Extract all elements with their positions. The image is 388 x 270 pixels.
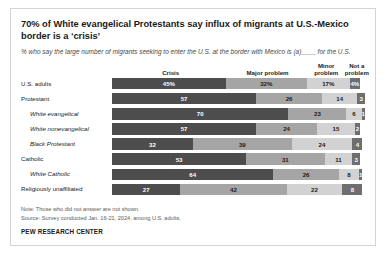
chart-row: Catholic5331113 xyxy=(21,153,365,168)
bar-segment-crisis: 70 xyxy=(112,108,288,119)
bar-value-label: 64 xyxy=(189,171,196,178)
chart-row: White Catholic642681 xyxy=(21,168,365,183)
bar-value-label: 1 xyxy=(359,171,362,178)
bar-segment-not-a-problem: 4 xyxy=(352,138,362,149)
bar-segment-minor-problem: 14 xyxy=(322,93,357,104)
bar-segment-not-a-problem: 4% xyxy=(350,78,360,89)
pew-research-center-logo: PEW RESEARCH CENTER xyxy=(21,228,365,235)
stacked-bar: 5726143 xyxy=(112,93,365,104)
bar-segment-major-problem: 24 xyxy=(256,123,317,134)
bar-segment-remainder xyxy=(362,169,365,180)
row-label-black-protestant: Black Protestant xyxy=(21,138,109,150)
bar-segment-crisis: 27 xyxy=(112,184,180,195)
bar-segment-minor-problem: 15 xyxy=(317,123,355,134)
bar-value-label: 14 xyxy=(336,95,343,102)
footnote-source: Source: Survey conducted Jan. 16-21, 202… xyxy=(21,214,365,222)
bar-value-label: 1 xyxy=(362,110,365,117)
bar-segment-minor-problem: 22 xyxy=(287,184,343,195)
stacked-bar: 5724152 xyxy=(112,123,365,134)
bar-segment-crisis: 57 xyxy=(112,123,256,134)
bar-value-label: 45% xyxy=(163,80,175,87)
bar-segment-minor-problem: 8 xyxy=(339,169,359,180)
stacked-bar: 2742228 xyxy=(112,184,365,195)
row-label-white-evangelical: White evangelical xyxy=(21,108,109,120)
column-header-not-a-problem: Not a problem xyxy=(340,62,374,76)
bar-value-label: 24 xyxy=(319,141,326,148)
chart-title: 70% of White evangelical Protestants say… xyxy=(21,18,365,43)
footnote-note: Note: Those who did not answer are not s… xyxy=(21,205,365,213)
chart-row: Protestant5726143 xyxy=(21,93,365,108)
bar-segment-remainder xyxy=(362,184,365,195)
chart-row: White evangelical702361 xyxy=(21,108,365,123)
chart-row: Black Protestant3239244 xyxy=(21,138,365,153)
bar-value-label: 31 xyxy=(282,156,289,163)
bar-segment-crisis: 45% xyxy=(112,78,226,89)
bar-value-label: 57 xyxy=(181,125,188,132)
bar-value-label: 24 xyxy=(283,125,290,132)
stacked-bar: 642681 xyxy=(112,169,365,180)
bar-segment-minor-problem: 24 xyxy=(292,138,353,149)
bar-segment-minor-problem: 17% xyxy=(307,78,350,89)
row-label-white-nonevangelical: White nonevangelical xyxy=(21,123,109,135)
bar-value-label: 39 xyxy=(239,141,246,148)
bar-value-label: 23 xyxy=(314,110,321,117)
bar-value-label: 2 xyxy=(356,125,359,132)
bar-value-label: 26 xyxy=(303,171,310,178)
bar-value-label: 32 xyxy=(149,141,156,148)
row-label-religiously-unaffiliated: Religiously unaffiliated xyxy=(21,183,109,195)
bar-value-label: 4% xyxy=(350,80,359,87)
bar-value-label: 17% xyxy=(322,80,334,87)
bar-segment-remainder xyxy=(360,123,365,134)
bar-value-label: 8 xyxy=(347,171,350,178)
row-label-catholic: Catholic xyxy=(21,153,109,165)
stacked-bar-chart: CrisisMajor problemMinor problemNot a pr… xyxy=(21,61,365,199)
stacked-bar: 3239244 xyxy=(112,138,365,149)
bar-value-label: 32% xyxy=(260,80,272,87)
chart-row: Religiously unaffiliated2742228 xyxy=(21,183,365,198)
column-header-crisis: Crisis xyxy=(136,69,206,76)
row-label-white-catholic: White Catholic xyxy=(21,168,109,180)
bar-segment-not-a-problem: 3 xyxy=(352,153,360,164)
bar-segment-major-problem: 32% xyxy=(226,78,307,89)
column-header-minor-problem: Minor problem xyxy=(309,62,343,76)
bar-value-label: 22 xyxy=(311,186,318,193)
bar-value-label: 57 xyxy=(181,95,188,102)
bar-segment-not-a-problem: 8 xyxy=(342,184,362,195)
bar-value-label: 3 xyxy=(354,156,357,163)
bar-segment-remainder xyxy=(362,138,365,149)
chart-row: White nonevangelical5724152 xyxy=(21,123,365,138)
bar-segment-major-problem: 39 xyxy=(193,138,292,149)
stacked-bar: 702361 xyxy=(112,108,365,119)
bar-segment-major-problem: 26 xyxy=(273,169,339,180)
stacked-bar: 45%32%17%4% xyxy=(112,78,365,89)
bar-value-label: 8 xyxy=(351,186,354,193)
chart-rows: U.S. adults45%32%17%4%Protestant5726143W… xyxy=(21,78,365,199)
column-header-major-problem: Major problem xyxy=(233,69,303,76)
bar-value-label: 4 xyxy=(356,141,359,148)
bar-segment-crisis: 32 xyxy=(112,138,193,149)
bar-value-label: 42 xyxy=(230,186,237,193)
bar-segment-crisis: 53 xyxy=(112,153,246,164)
column-headers: CrisisMajor problemMinor problemNot a pr… xyxy=(21,61,365,78)
stacked-bar: 5331113 xyxy=(112,153,365,164)
bar-segment-crisis: 57 xyxy=(112,93,256,104)
row-label-u-s-adults: U.S. adults xyxy=(21,78,109,90)
bar-segment-minor-problem: 6 xyxy=(346,108,361,119)
bar-segment-major-problem: 42 xyxy=(180,184,286,195)
bar-value-label: 70 xyxy=(197,110,204,117)
bar-value-label: 53 xyxy=(176,156,183,163)
bar-segment-major-problem: 26 xyxy=(256,93,322,104)
chart-subtitle: % who say the large number of migrants s… xyxy=(21,48,365,57)
bar-value-label: 6 xyxy=(352,110,355,117)
bar-segment-crisis: 64 xyxy=(112,169,273,180)
bar-segment-remainder xyxy=(360,153,365,164)
chart-row: U.S. adults45%32%17%4% xyxy=(21,78,365,93)
bar-segment-not-a-problem: 3 xyxy=(357,93,365,104)
bar-segment-major-problem: 23 xyxy=(288,108,346,119)
bar-value-label: 3 xyxy=(360,95,363,102)
bar-value-label: 15 xyxy=(333,125,340,132)
chart-card: 70% of White evangelical Protestants say… xyxy=(10,8,376,246)
chart-footer: Note: Those who did not answer are not s… xyxy=(21,205,365,235)
bar-segment-major-problem: 31 xyxy=(246,153,324,164)
bar-segment-not-a-problem: 1 xyxy=(362,108,365,119)
